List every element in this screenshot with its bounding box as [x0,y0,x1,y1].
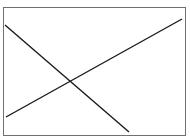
crossing-lines-diagram [0,0,190,140]
diagram-frame [4,8,186,136]
